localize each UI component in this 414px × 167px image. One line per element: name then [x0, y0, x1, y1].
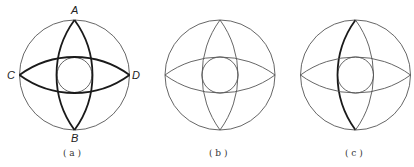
horizontal-lens-bottom-arc: [20, 75, 130, 93]
vertical-lens-left-arc: [202, 20, 220, 130]
point-label-a: A: [70, 4, 78, 16]
outer-circle: [301, 20, 411, 130]
horizontal-lens-bottom-arc: [301, 75, 411, 93]
outer-circle: [165, 20, 275, 130]
horizontal-lens-top-arc: [165, 57, 275, 75]
inner-circle: [202, 57, 238, 93]
figure-canvas: A B C D ( a ) ( b ) ( c ): [0, 0, 414, 167]
point-label-d: D: [132, 69, 140, 81]
horizontal-lens-top-arc: [301, 57, 411, 75]
inner-circle: [338, 57, 374, 93]
outer-circle: [20, 20, 130, 130]
inner-circle: [57, 58, 92, 93]
caption-b: ( b ): [209, 148, 228, 158]
panel-b-diagram: [165, 20, 275, 130]
vertical-lens-left-arc: [57, 20, 75, 130]
caption-c: ( c ): [345, 148, 363, 158]
panel-c-diagram: [301, 20, 411, 130]
vertical-lens-left-arc: [337, 20, 355, 130]
horizontal-lens-bottom-arc: [165, 75, 275, 93]
horizontal-lens-top-arc: [20, 57, 130, 75]
vertical-lens-right-arc: [75, 20, 93, 130]
vertical-lens-right-arc: [220, 20, 238, 130]
point-label-b: B: [71, 132, 78, 144]
panel-a-diagram: [20, 20, 130, 130]
vertical-lens-right-arc: [356, 20, 374, 130]
caption-a: ( a ): [63, 148, 81, 158]
point-label-c: C: [7, 69, 15, 81]
